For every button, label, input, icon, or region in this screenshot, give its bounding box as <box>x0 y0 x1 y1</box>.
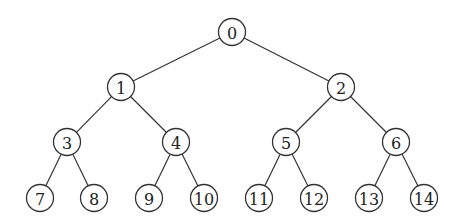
tree-edge-5-11 <box>265 154 280 186</box>
tree-node-10: 10 <box>191 185 218 212</box>
node-label: 11 <box>249 190 269 209</box>
tree-edge-2-5 <box>296 97 332 133</box>
tree-node-6: 6 <box>383 129 410 156</box>
tree-edge-1-4 <box>131 97 167 133</box>
node-label: 10 <box>194 190 214 209</box>
node-label: 4 <box>171 134 181 153</box>
tree-node-14: 14 <box>411 185 438 212</box>
node-label: 13 <box>359 190 379 209</box>
node-label: 1 <box>116 79 126 98</box>
tree-node-13: 13 <box>356 185 383 212</box>
tree-edge-6-14 <box>402 154 418 186</box>
node-label: 12 <box>304 190 324 209</box>
tree-edge-3-8 <box>73 154 88 186</box>
tree-edge-1-3 <box>76 97 111 133</box>
node-label: 14 <box>414 190 434 209</box>
tree-node-8: 8 <box>81 185 108 212</box>
node-label: 0 <box>227 24 237 43</box>
node-label: 5 <box>281 134 291 153</box>
tree-edge-0-1 <box>133 38 220 81</box>
tree-node-0: 0 <box>219 19 246 46</box>
tree-edge-0-2 <box>244 38 329 81</box>
tree-edge-4-9 <box>155 154 170 186</box>
tree-edge-5-12 <box>292 154 308 186</box>
node-label: 7 <box>35 190 45 209</box>
tree-node-11: 11 <box>246 185 273 212</box>
tree-edges <box>46 38 418 186</box>
tree-edge-6-13 <box>375 154 390 186</box>
tree-node-7: 7 <box>27 185 54 212</box>
tree-node-9: 9 <box>136 185 163 212</box>
tree-edge-2-6 <box>351 97 387 133</box>
node-label: 2 <box>336 79 346 98</box>
node-label: 9 <box>144 190 154 209</box>
tree-node-12: 12 <box>301 185 328 212</box>
tree-node-3: 3 <box>54 129 81 156</box>
node-label: 8 <box>89 190 99 209</box>
node-label: 3 <box>62 134 72 153</box>
tree-node-1: 1 <box>108 74 135 101</box>
tree-edge-3-7 <box>46 154 61 186</box>
tree-node-5: 5 <box>273 129 300 156</box>
binary-tree-diagram: 01234567891011121314 <box>0 0 462 224</box>
tree-node-4: 4 <box>163 129 190 156</box>
tree-node-2: 2 <box>328 74 355 101</box>
tree-edge-4-10 <box>182 154 198 186</box>
node-label: 6 <box>391 134 401 153</box>
